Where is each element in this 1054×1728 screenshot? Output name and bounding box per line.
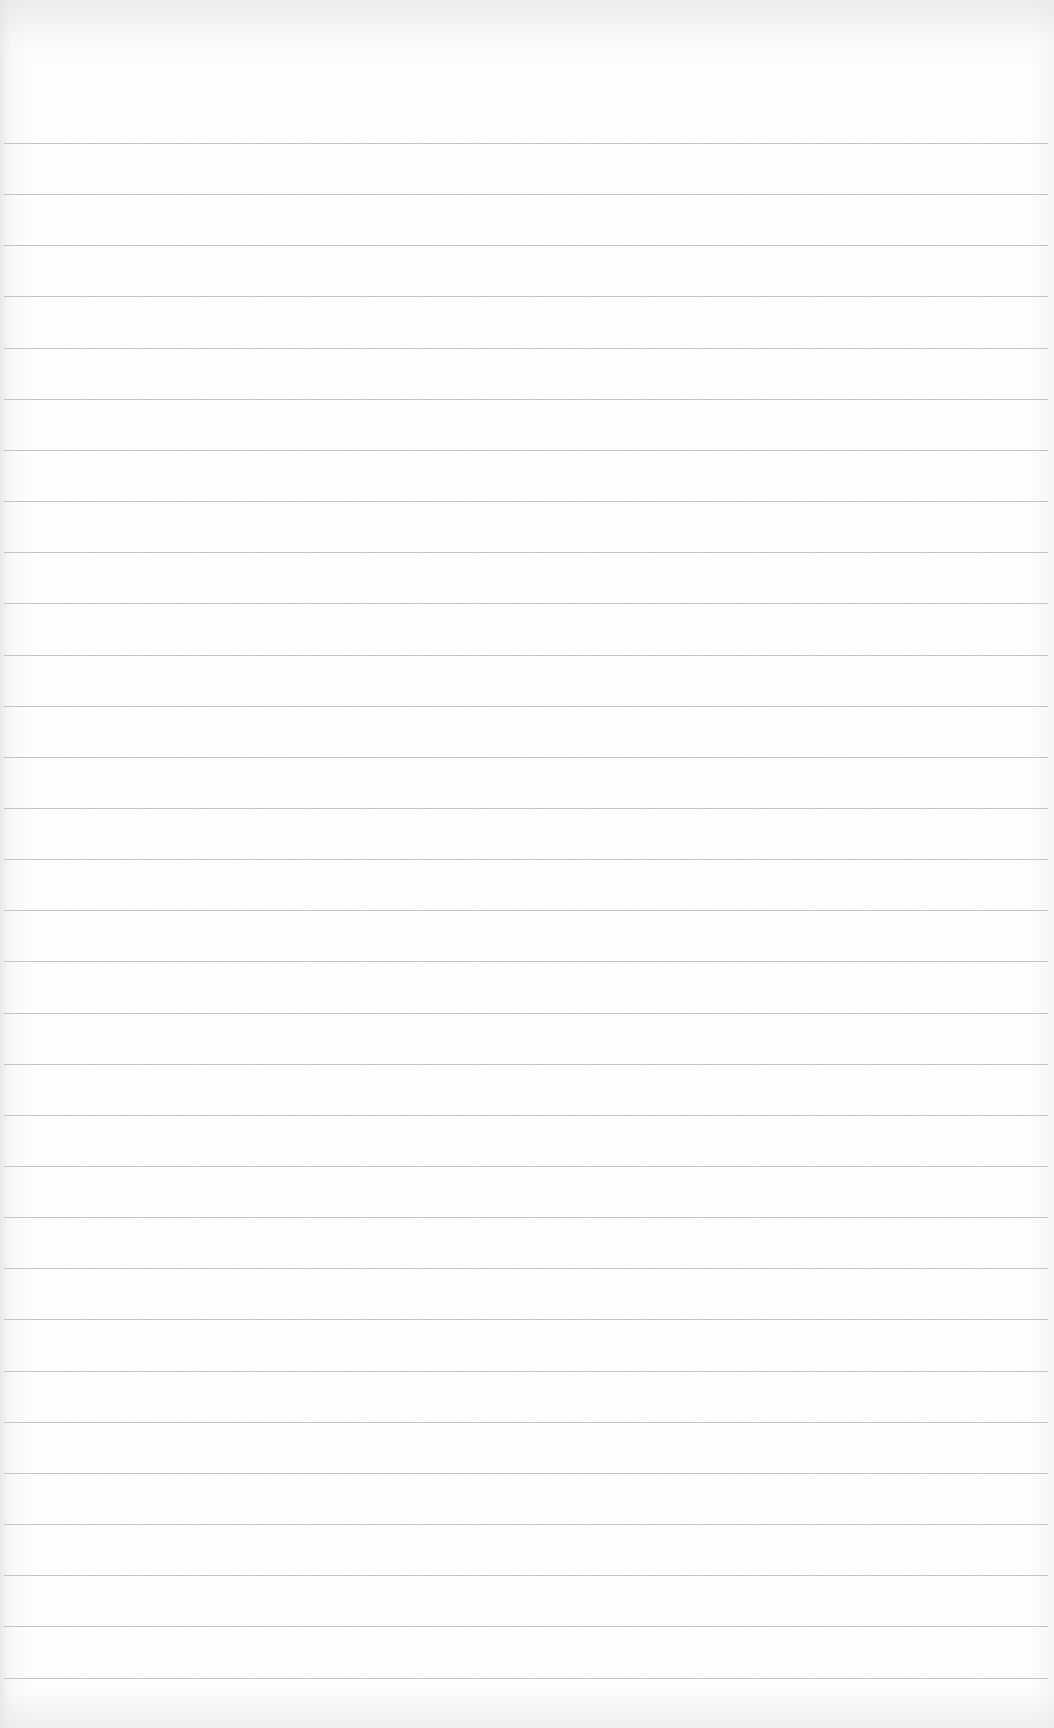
- paper-top-shadow: [0, 0, 1054, 70]
- paper-bottom-shadow: [0, 1688, 1054, 1728]
- ruled-line: [4, 1626, 1048, 1627]
- ruled-line: [4, 603, 1048, 604]
- ruled-line: [4, 194, 1048, 195]
- ruled-line: [4, 1013, 1048, 1014]
- ruled-line: [4, 961, 1048, 962]
- ruled-line: [4, 1422, 1048, 1423]
- ruled-line: [4, 859, 1048, 860]
- ruled-line: [4, 655, 1048, 656]
- ruled-line: [4, 1524, 1048, 1525]
- ruled-line: [4, 757, 1048, 758]
- ruled-line: [4, 348, 1048, 349]
- ruled-line: [4, 1217, 1048, 1218]
- ruled-line: [4, 1678, 1048, 1679]
- ruled-line: [4, 296, 1048, 297]
- ruled-line: [4, 808, 1048, 809]
- ruled-line: [4, 1268, 1048, 1269]
- ruled-line: [4, 1575, 1048, 1576]
- ruled-line: [4, 501, 1048, 502]
- ruled-line: [4, 552, 1048, 553]
- ruled-line: [4, 1166, 1048, 1167]
- ruled-line: [4, 1371, 1048, 1372]
- ruled-line: [4, 450, 1048, 451]
- ruled-line: [4, 399, 1048, 400]
- ruled-line: [4, 143, 1048, 144]
- ruled-line: [4, 1319, 1048, 1320]
- ruled-line: [4, 910, 1048, 911]
- ruled-line: [4, 245, 1048, 246]
- ruled-line: [4, 1115, 1048, 1116]
- ruled-line: [4, 1473, 1048, 1474]
- ruled-line: [4, 706, 1048, 707]
- ruled-line: [4, 1064, 1048, 1065]
